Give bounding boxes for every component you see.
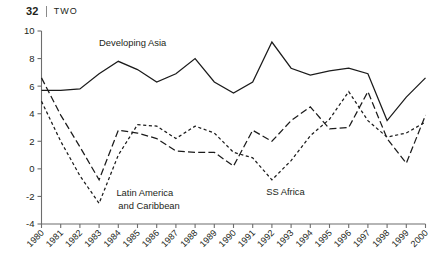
y-tick-label: -2 [26, 191, 34, 202]
series-line [42, 42, 426, 121]
y-tick-label: -4 [26, 218, 34, 229]
x-tick-label: 1987 [159, 228, 180, 249]
x-tick-label: 1994 [293, 228, 314, 249]
y-tick-label: 8 [29, 53, 34, 64]
x-tick-label: 1982 [63, 228, 84, 249]
x-tick-label: 1992 [255, 228, 276, 249]
x-tick-label: 1996 [332, 228, 353, 249]
x-tick-label: 1980 [25, 228, 46, 249]
x-axis: 1980198119821983198419851986198719881989… [25, 224, 430, 249]
x-tick-label: 1981 [44, 228, 65, 249]
x-tick-label: 1986 [140, 228, 161, 249]
y-tick-label: 6 [29, 81, 34, 92]
data-series-group [42, 42, 426, 203]
y-tick-label: 0 [29, 163, 34, 174]
series-annotations: Developing AsiaLatin Americaand Caribbea… [99, 37, 305, 211]
x-tick-label: 1999 [389, 228, 410, 249]
x-tick-label: 1988 [178, 228, 199, 249]
line-chart: -4-20246810 1980198119821983198419851986… [0, 0, 434, 264]
series-label: Developing Asia [99, 37, 167, 48]
x-tick-label: 2000 [409, 228, 430, 249]
series-line [42, 92, 426, 204]
x-tick-label: 1995 [313, 228, 334, 249]
y-tick-label: 2 [29, 136, 34, 147]
x-tick-label: 1984 [101, 228, 122, 249]
y-tick-label: 4 [29, 108, 34, 119]
x-tick-label: 1989 [197, 228, 218, 249]
series-label: and Caribbean [118, 200, 180, 211]
chart-canvas: -4-20246810 1980198119821983198419851986… [0, 0, 434, 264]
x-tick-label: 1983 [82, 228, 103, 249]
series-label: SS Africa [266, 186, 305, 197]
x-tick-label: 1998 [370, 228, 391, 249]
x-tick-label: 1985 [121, 228, 142, 249]
x-tick-label: 1991 [236, 228, 257, 249]
x-tick-label: 1993 [274, 228, 295, 249]
page-root: 32 TWO -4-20246810 198019811982198319841… [0, 0, 434, 264]
x-tick-label: 1990 [217, 228, 238, 249]
y-tick-label: 10 [24, 25, 35, 36]
y-axis: -4-20246810 [24, 25, 42, 229]
series-label: Latin America [116, 187, 174, 198]
x-tick-label: 1997 [351, 228, 372, 249]
